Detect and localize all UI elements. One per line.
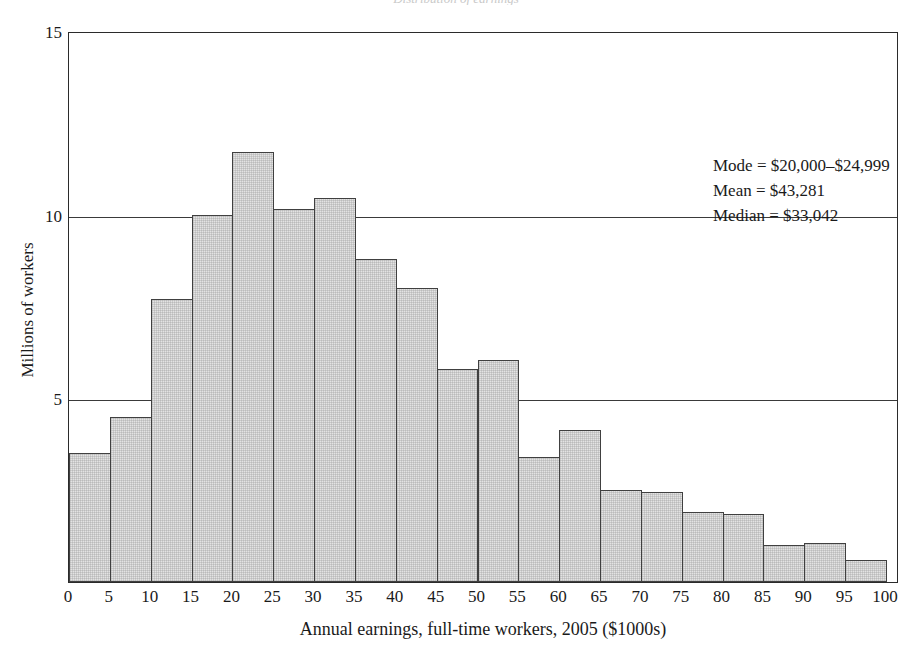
x-tick-label-100: 100	[855, 588, 912, 605]
histogram-bar	[232, 152, 274, 582]
histogram-bar	[396, 288, 438, 582]
histogram-bar	[273, 209, 315, 582]
histogram-bar	[151, 299, 193, 582]
x-axis-ticks: 0510152025303540455055606570758085909510…	[68, 588, 898, 612]
y-tick-label-10: 10	[2, 207, 62, 224]
histogram-bar	[559, 430, 601, 582]
histogram-bar	[355, 259, 397, 582]
annotation-median: Median = $33,042	[713, 203, 890, 228]
histogram-bar	[763, 545, 805, 582]
cropped-figure-title: Distribution of earnings	[0, 0, 912, 5]
histogram-bar	[682, 512, 724, 582]
histogram-bar	[600, 490, 642, 582]
histogram-bar	[192, 215, 234, 582]
histogram-bar	[478, 360, 520, 582]
histogram-bar	[641, 492, 683, 582]
plot-area: Mode = $20,000–$24,999 Mean = $43,281 Me…	[68, 32, 898, 583]
histogram-bar	[845, 560, 887, 582]
histogram-bar	[723, 514, 765, 582]
histogram-bar	[314, 198, 356, 582]
histogram-bar	[69, 453, 111, 582]
histogram-bar	[518, 457, 560, 582]
histogram-bar	[437, 369, 479, 582]
y-tick-label-15: 15	[2, 24, 62, 41]
statistics-annotation: Mode = $20,000–$24,999 Mean = $43,281 Me…	[713, 153, 890, 228]
x-axis-title: Annual earnings, full-time workers, 2005…	[68, 619, 898, 640]
annotation-mean: Mean = $43,281	[713, 178, 890, 203]
histogram-bar	[110, 417, 152, 582]
histogram-bar	[804, 543, 846, 582]
histogram-bars	[69, 33, 897, 582]
y-tick-label-5: 5	[2, 391, 62, 408]
annotation-mode: Mode = $20,000–$24,999	[713, 153, 890, 178]
y-axis-ticks: 51015	[0, 32, 62, 583]
